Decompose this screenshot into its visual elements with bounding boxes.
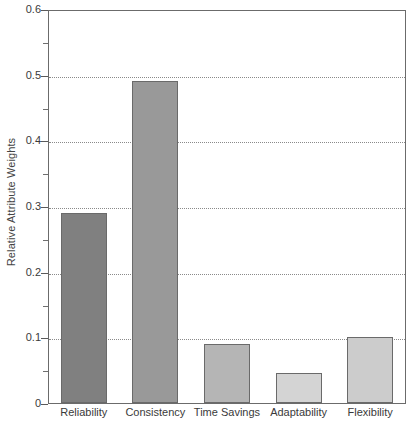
y-tick-minor [43, 371, 48, 372]
y-tick-label: 0.4 [7, 134, 41, 146]
y-tick-minor [43, 306, 48, 307]
y-tick-minor [43, 43, 48, 44]
gridline [49, 208, 405, 209]
y-tick-major [41, 404, 48, 405]
y-tick-minor [43, 240, 48, 241]
y-tick-label: 0 [7, 397, 41, 409]
y-tick-label: 0.6 [7, 3, 41, 15]
y-tick-major [41, 141, 48, 142]
y-tick-major [41, 76, 48, 77]
bar-consistency [132, 81, 178, 403]
gridline [49, 77, 405, 78]
gridline [49, 142, 405, 143]
bar-time-savings [204, 344, 250, 403]
y-tick-major [41, 207, 48, 208]
x-axis-label-adaptability: Adaptability [263, 406, 335, 418]
x-axis-label-time-savings: Time Savings [191, 406, 263, 418]
y-tick-label: 0.3 [7, 200, 41, 212]
y-tick-minor [43, 109, 48, 110]
y-tick-major [41, 273, 48, 274]
y-tick-major [41, 338, 48, 339]
bar-adaptability [276, 373, 322, 403]
bar-flexibility [347, 337, 393, 403]
x-axis-label-reliability: Reliability [48, 406, 120, 418]
y-tick-minor [43, 174, 48, 175]
x-axis-label-flexibility: Flexibility [334, 406, 406, 418]
y-tick-label: 0.2 [7, 266, 41, 278]
y-tick-major [41, 10, 48, 11]
y-tick-label: 0.5 [7, 69, 41, 81]
bar-chart: Relative Attribute Weights 00.10.20.30.4… [0, 0, 415, 430]
y-tick-label: 0.1 [7, 331, 41, 343]
bar-reliability [61, 213, 107, 403]
x-axis-labels: ReliabilityConsistencyTime SavingsAdapta… [48, 406, 406, 428]
x-axis-label-consistency: Consistency [120, 406, 192, 418]
